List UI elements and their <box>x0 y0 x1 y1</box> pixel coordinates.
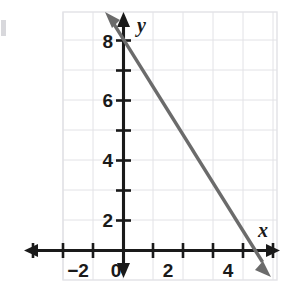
grid-group <box>63 12 277 280</box>
x-tick-label-4: 4 <box>223 260 234 281</box>
plot-background <box>63 12 277 280</box>
x-axis-label: x <box>257 219 268 241</box>
graph-figure: 8 6 4 2 −2 0 2 4 y x <box>0 0 285 287</box>
y-axis-label: y <box>135 14 146 37</box>
x-tick-label-2: 2 <box>163 260 174 281</box>
origin-label: 0 <box>111 260 122 281</box>
page-edge-mark <box>1 20 6 36</box>
y-tick-label-8: 8 <box>102 31 113 52</box>
y-tick-label-2: 2 <box>102 210 113 231</box>
y-tick-label-4: 4 <box>102 150 113 171</box>
coordinate-plane-chart: 8 6 4 2 −2 0 2 4 y x <box>0 0 285 287</box>
x-tick-label-neg2: −2 <box>67 260 89 281</box>
y-tick-label-6: 6 <box>102 90 113 111</box>
x-axis-arrow-left-icon <box>24 244 38 257</box>
